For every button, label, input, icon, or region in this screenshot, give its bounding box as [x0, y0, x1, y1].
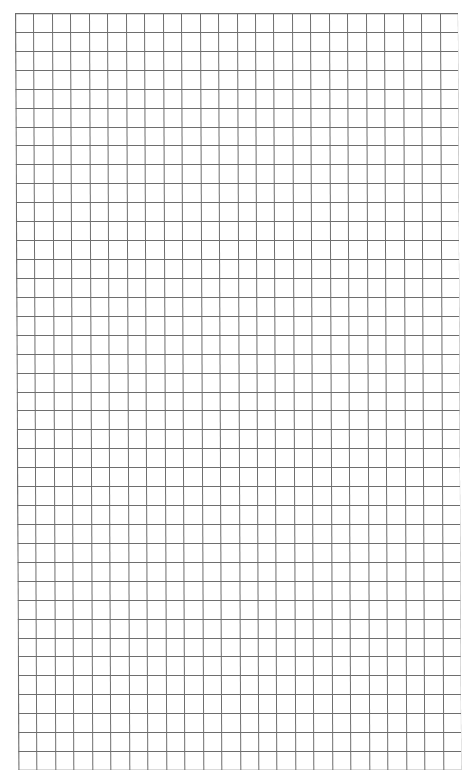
grid-lines — [15, 13, 461, 770]
graph-paper-grid — [15, 13, 461, 770]
